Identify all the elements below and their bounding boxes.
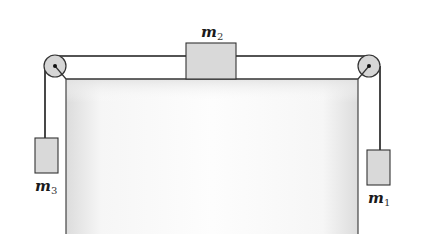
pulley-axle <box>53 64 57 68</box>
pulley-axle <box>367 64 371 68</box>
mass-m1: m1 <box>367 150 390 208</box>
block-m3 <box>35 138 58 173</box>
table <box>66 79 358 234</box>
label-m2: m2 <box>201 23 223 42</box>
mass-m3: m3 <box>35 138 58 196</box>
block-m2 <box>186 43 236 79</box>
mass-m2: m2 <box>186 23 236 79</box>
label-m1: m1 <box>368 189 390 208</box>
pulley-diagram: m2 m3 m1 <box>0 0 421 251</box>
label-m3: m3 <box>35 177 57 196</box>
block-m1 <box>367 150 390 185</box>
right-pulley <box>358 55 380 79</box>
left-pulley <box>44 55 66 79</box>
